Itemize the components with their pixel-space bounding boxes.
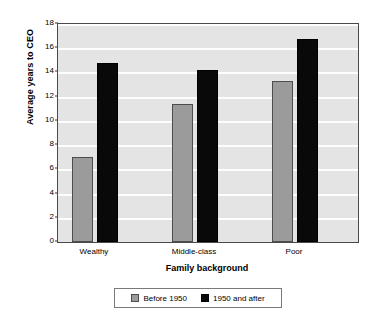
bar <box>272 81 293 242</box>
y-axis-tick-label: 4 <box>30 189 54 197</box>
bar <box>297 39 318 242</box>
legend-entry: Before 1950 <box>131 294 187 303</box>
legend-label: 1950 and after <box>213 294 265 303</box>
bar <box>172 104 193 242</box>
legend-entry: 1950 and after <box>201 294 265 303</box>
bar <box>197 70 218 242</box>
x-axis-tick-labels: WealthyMiddle-classPoor <box>57 247 357 261</box>
y-axis-tick-label: 2 <box>30 213 54 221</box>
y-axis-tick-label: 6 <box>30 164 54 172</box>
bar-chart: Average years to CEO 024681012141618 Wea… <box>0 0 374 322</box>
bars-layer <box>58 24 358 242</box>
y-axis-tick-label: 12 <box>30 92 54 100</box>
y-axis-tick-label: 8 <box>30 140 54 148</box>
x-axis-tick-label: Middle-class <box>172 247 216 256</box>
y-axis-tick-label: 18 <box>30 19 54 27</box>
y-axis-tick-label: 0 <box>30 237 54 245</box>
x-axis-tick-label: Wealthy <box>80 247 109 256</box>
bar <box>97 63 118 242</box>
1950-and-after-swatch <box>201 294 209 302</box>
y-axis-tick-labels: 024681012141618 <box>30 23 54 241</box>
plot-area <box>57 23 359 243</box>
legend-label: Before 1950 <box>143 294 187 303</box>
x-axis-title: Family background <box>57 263 357 273</box>
y-axis-tick-label: 10 <box>30 116 54 124</box>
y-axis-tick-label: 14 <box>30 67 54 75</box>
x-axis-tick-label: Poor <box>286 247 303 256</box>
y-axis-tick-label: 16 <box>30 43 54 51</box>
legend: Before 19501950 and after <box>114 288 282 308</box>
before-1950-swatch <box>131 294 139 302</box>
bar <box>72 157 93 242</box>
